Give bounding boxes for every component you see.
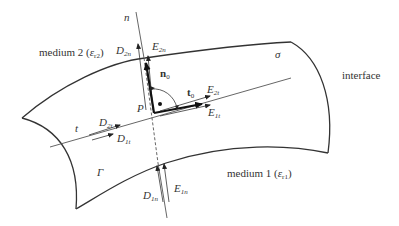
tangent-axis (50, 78, 291, 147)
D2n-label: D2n (115, 44, 131, 58)
E2t-label: E2t (206, 83, 220, 97)
D2n-arrow (138, 44, 146, 110)
interface-label: interface (342, 69, 381, 81)
medium1-label: medium 1 (εr1) (227, 167, 292, 181)
surface-left-edge (22, 118, 77, 209)
D1t-label: D1t (116, 132, 131, 146)
E1n-arrow (164, 164, 169, 202)
D1n-label: D1n (142, 189, 158, 203)
D1t-arrow (92, 134, 113, 140)
D2t-label: D2t (98, 116, 113, 130)
point-P-label: P (136, 102, 144, 114)
right-angle-arc (151, 89, 177, 108)
n0-label: n0 (160, 67, 170, 81)
E1t-label: E1t (207, 106, 221, 120)
sigma-label: σ (275, 48, 281, 60)
right-angle-dot (158, 102, 162, 106)
gamma-label: Γ (96, 166, 104, 178)
t0-label: t0 (187, 86, 195, 100)
tangent-axis-label: t (75, 122, 79, 134)
E1n-label: E1n (173, 182, 188, 196)
interface-diagram: n medium 2 (εr2) D2n E2n n0 t0 E2t E1t P… (0, 0, 399, 226)
surface-right-edge (291, 42, 330, 153)
medium2-label: medium 2 (εr2) (39, 46, 104, 60)
E2n-label: E2n (151, 40, 166, 54)
normal-axis-label: n (124, 11, 130, 23)
